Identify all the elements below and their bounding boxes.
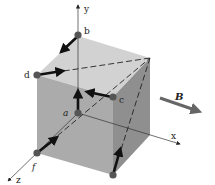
point-a <box>74 109 81 116</box>
point-c-label: c <box>119 95 124 105</box>
point-a-label: a <box>63 108 68 118</box>
point-b-label: b <box>84 26 90 36</box>
magnetic-field-label: B <box>174 91 183 102</box>
magnetic-field-cube-diagram: y x z b d c a f B <box>0 0 215 185</box>
point-f-label: f <box>31 162 37 172</box>
point-d <box>33 71 40 78</box>
point-f <box>33 149 40 156</box>
point-d-label: d <box>24 70 30 80</box>
point-b <box>74 31 81 38</box>
y-axis-label: y <box>83 4 90 14</box>
point-bottom-corner <box>109 171 116 178</box>
x-axis-label: x <box>171 131 176 141</box>
point-c <box>109 93 116 100</box>
z-axis-label: z <box>16 175 21 185</box>
